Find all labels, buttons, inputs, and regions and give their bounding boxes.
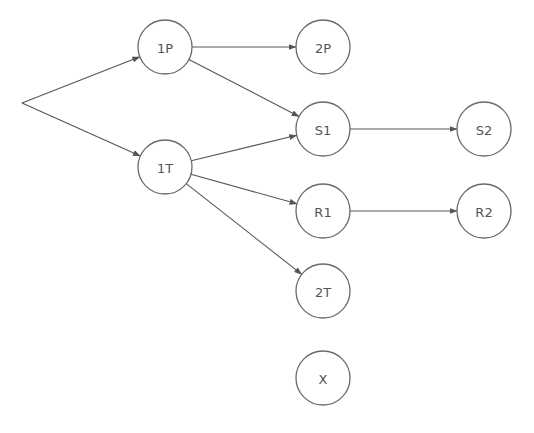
edges-layer <box>22 47 457 274</box>
node-s2: S2 <box>457 102 511 156</box>
node-label: 2T <box>315 285 331 300</box>
node-s1: S1 <box>296 102 350 156</box>
edge-arrow-1t-to-2t <box>186 184 302 275</box>
node-r2: R2 <box>457 184 511 238</box>
node-label: 1P <box>157 41 173 56</box>
state-diagram: 1P1T2PS1R12TXS2R2 <box>0 0 534 433</box>
edge-arrow-start-to-1p <box>22 57 140 103</box>
node-label: 2P <box>315 41 331 56</box>
node-1t: 1T <box>138 140 192 194</box>
node-1p: 1P <box>138 20 192 74</box>
node-label: X <box>319 372 328 387</box>
node-label: S2 <box>476 123 493 138</box>
node-x: X <box>296 351 350 405</box>
node-label: 1T <box>157 161 173 176</box>
node-label: R2 <box>475 205 492 220</box>
node-2t: 2T <box>296 264 350 318</box>
edge-arrow-1p-to-s1 <box>189 59 299 116</box>
edge-arrow-start-to-1t <box>22 103 140 156</box>
node-2p: 2P <box>296 20 350 74</box>
edge-arrow-1t-to-s1 <box>191 135 296 160</box>
nodes-layer: 1P1T2PS1R12TXS2R2 <box>138 20 511 405</box>
node-label: S1 <box>315 123 332 138</box>
node-label: R1 <box>314 205 331 220</box>
node-r1: R1 <box>296 184 350 238</box>
